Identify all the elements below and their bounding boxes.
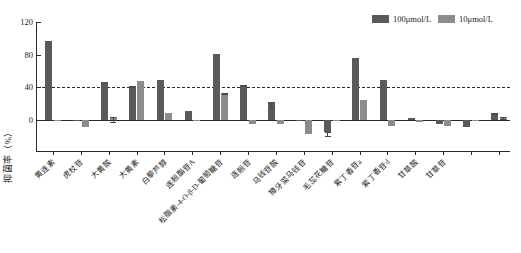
bar-100umol[interactable]: [324, 120, 331, 132]
bar-group[interactable]: [351, 22, 368, 151]
y-tick-label: 120: [20, 17, 37, 27]
bar-group[interactable]: [239, 22, 256, 151]
y-tick-label: 0: [29, 115, 37, 125]
bar-group[interactable]: [267, 22, 284, 151]
bar-group[interactable]: [184, 22, 201, 151]
bar-group[interactable]: [462, 22, 479, 151]
bar-10umol[interactable]: [305, 120, 312, 135]
bar-group[interactable]: [490, 22, 507, 151]
error-bar: [132, 86, 133, 88]
bar-100umol[interactable]: [436, 120, 443, 124]
x-tick-label: 大黄素: [118, 158, 140, 180]
bar-10umol[interactable]: [277, 120, 284, 125]
bar-100umol[interactable]: [185, 111, 192, 120]
error-bar: [243, 85, 244, 87]
bar-10umol[interactable]: [193, 120, 200, 122]
bar-100umol[interactable]: [101, 82, 108, 119]
bar-100umol[interactable]: [463, 120, 470, 127]
y-tick-label: 40: [25, 82, 38, 92]
bar-group[interactable]: [435, 22, 452, 151]
x-tick-label: 黄连素: [34, 158, 56, 180]
bar-10umol[interactable]: [221, 93, 228, 120]
bar-10umol[interactable]: [472, 120, 479, 121]
bar-group[interactable]: [128, 22, 145, 151]
x-tick-label: 虎杖苷: [62, 158, 84, 180]
bar-100umol[interactable]: [45, 41, 52, 120]
bar-10umol[interactable]: [333, 120, 340, 121]
bar-group[interactable]: [44, 22, 61, 151]
x-axis-label-group: 黄连素虎杖苷大黄酸大黄素白藜芦醇连翘酯苷A松脂素-4-O-β-D-葡萄糖苷连翘苷…: [36, 152, 510, 253]
bar-100umol[interactable]: [240, 85, 247, 120]
bar-100umol[interactable]: [157, 80, 164, 120]
bar-group[interactable]: [407, 22, 424, 151]
bar-group[interactable]: [100, 22, 117, 151]
x-tick-label: 大黄酸: [90, 158, 112, 180]
x-tick-label: 紫丁香苷d: [361, 158, 392, 189]
bar-10umol[interactable]: [137, 81, 144, 120]
x-tick-label: 连翘苷: [230, 158, 252, 180]
bar-group[interactable]: [379, 22, 396, 151]
bar-groups: [37, 22, 510, 151]
bar-10umol[interactable]: [82, 120, 89, 127]
error-bar: [327, 132, 328, 138]
y-axis-title: 抑菌率（%）: [1, 127, 14, 183]
bar-group[interactable]: [212, 22, 229, 151]
y-axis-title-wrap: 抑菌率（%）: [8, 0, 9, 253]
bar-100umol[interactable]: [352, 58, 359, 120]
error-bar: [271, 102, 272, 109]
bar-10umol[interactable]: [444, 120, 451, 127]
bar-100umol[interactable]: [408, 118, 415, 120]
bar-group[interactable]: [72, 22, 89, 151]
error-bar: [113, 117, 114, 123]
bar-10umol[interactable]: [165, 113, 172, 120]
error-bar: [494, 113, 495, 115]
figure-canvas: 100μmol/L 10μmol/L 抑菌率（%） 04080120 黄连素虎杖…: [0, 0, 521, 253]
bar-group[interactable]: [323, 22, 340, 151]
bar-100umol[interactable]: [73, 120, 80, 121]
bar-100umol[interactable]: [380, 80, 387, 120]
error-bar: [503, 117, 504, 119]
bar-10umol[interactable]: [388, 120, 395, 127]
x-tick-label: 甘草酸: [397, 158, 419, 180]
bar-group[interactable]: [295, 22, 312, 151]
bar-100umol[interactable]: [129, 86, 136, 119]
x-tick-label: 紫丁香苷a: [333, 158, 363, 188]
bar-100umol[interactable]: [296, 120, 303, 121]
error-bar: [224, 93, 225, 95]
bar-10umol[interactable]: [360, 100, 367, 120]
bar-group[interactable]: [156, 22, 173, 151]
x-tick-label: 甘草苷: [425, 158, 447, 180]
bar-100umol[interactable]: [213, 54, 220, 120]
y-tick-label: 80: [25, 50, 38, 60]
bar-10umol[interactable]: [416, 120, 423, 122]
bar-10umol[interactable]: [249, 120, 256, 124]
bar-10umol[interactable]: [54, 120, 61, 121]
plot-area: 04080120: [36, 22, 510, 152]
